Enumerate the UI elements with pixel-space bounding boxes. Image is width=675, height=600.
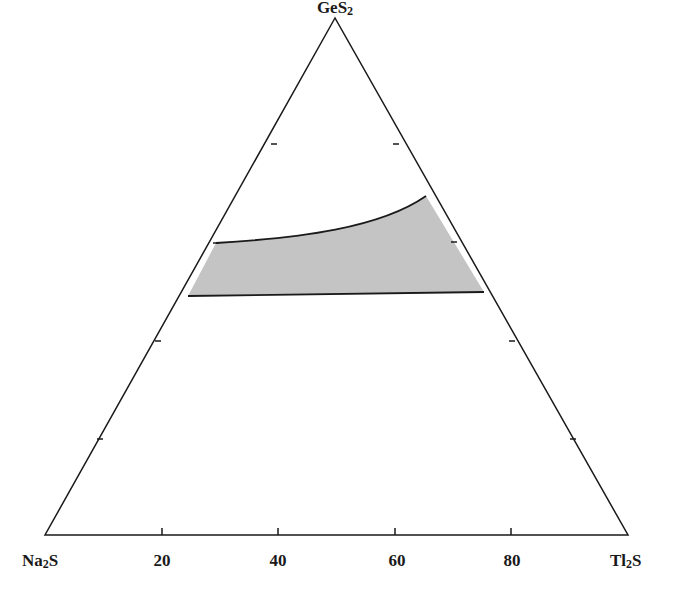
vertex-label-left: Na2S xyxy=(22,551,58,571)
glass-forming-region xyxy=(188,196,484,296)
ternary-diagram: GeS2 Na2S Tl2S 20 40 60 80 xyxy=(0,0,675,600)
tick-label-60: 60 xyxy=(389,551,406,570)
vertex-label-right: Tl2S xyxy=(610,551,642,571)
vertex-label-top: GeS2 xyxy=(317,0,353,18)
tick-label-80: 80 xyxy=(504,551,521,570)
tick-label-20: 20 xyxy=(154,551,171,570)
tick-label-40: 40 xyxy=(270,551,287,570)
bottom-axis-ticks xyxy=(162,528,511,535)
